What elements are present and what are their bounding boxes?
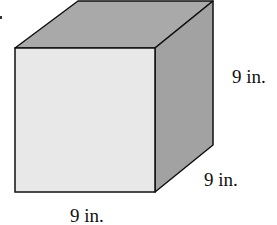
- depth-label: 9 in.: [204, 169, 238, 190]
- cube-front-face: [15, 48, 155, 192]
- stray-dot: [0, 16, 2, 19]
- width-label: 9 in.: [70, 205, 104, 225]
- cube-diagram: 9 in. 9 in. 9 in.: [0, 0, 277, 225]
- height-label: 9 in.: [232, 66, 266, 87]
